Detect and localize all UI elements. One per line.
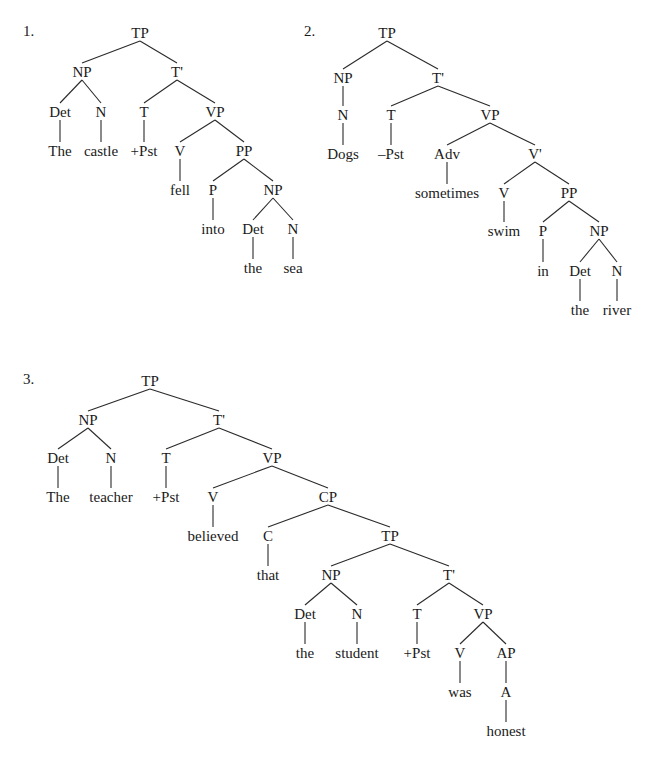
tree-node-label: A: [501, 685, 512, 700]
tree-node-label: AP: [496, 646, 515, 661]
tree-leaf-word: +Pst: [153, 490, 180, 505]
tree-node-label: N: [352, 607, 363, 622]
tree-node-label: Det: [294, 607, 316, 622]
tree-node-label: N: [106, 451, 117, 466]
tree-node-label: Det: [47, 451, 69, 466]
tree-node-label: TP: [141, 374, 159, 389]
tree-node-label: T: [412, 607, 421, 622]
tree-leaf-word: honest: [486, 724, 525, 739]
tree-leaf-word: the: [296, 646, 314, 661]
tree-node-label: V: [208, 490, 219, 505]
tree-node-label: VP: [262, 451, 281, 466]
tree-leaf-word: student: [335, 646, 378, 661]
tree-leaf-word: +Pst: [404, 646, 431, 661]
tree-node-label: TP: [381, 529, 399, 544]
tree-node-label: NP: [321, 568, 340, 583]
tree-leaf-word: was: [448, 685, 471, 700]
tree-node-label: C: [263, 529, 273, 544]
tree-node-label: NP: [78, 413, 97, 428]
tree-node-label: V: [455, 646, 466, 661]
tree-node-label: T': [213, 413, 225, 428]
tree-node-label: T: [161, 451, 170, 466]
tree-leaf-word: teacher: [89, 490, 132, 505]
syntax-tree-3: 3. TPNPT'DetNTVPTheteacher+PstVCPbelieve…: [0, 0, 651, 768]
tree-leaf-word: believed: [188, 529, 239, 544]
tree-node-label: T': [443, 568, 455, 583]
tree-leaf-word: The: [46, 490, 69, 505]
tree-node-label: CP: [319, 490, 337, 505]
tree-number: 3.: [23, 372, 34, 387]
tree-leaf-word: that: [257, 568, 280, 583]
tree-node-label: VP: [473, 607, 492, 622]
